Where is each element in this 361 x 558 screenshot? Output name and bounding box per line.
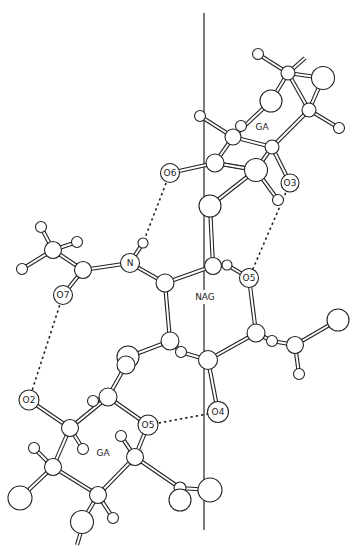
atom-bC4 — [45, 459, 62, 476]
atom-bH5 — [108, 513, 119, 524]
atom-gB3 — [245, 159, 268, 182]
atom-bH3 — [116, 431, 127, 442]
atom-gC1 — [281, 66, 295, 80]
hydrogen-bond-o3-o5n — [249, 183, 290, 278]
atom-nH5b — [294, 369, 305, 380]
atom-nC5 — [247, 324, 265, 342]
atom-bC1 — [99, 388, 117, 406]
atom-gH2 — [334, 123, 345, 134]
atom-nCm — [75, 262, 92, 279]
residue-label-ga-bottom: GA — [96, 448, 110, 458]
atom-gB1 — [312, 67, 335, 90]
atom-gO_r — [260, 90, 282, 112]
atom-label-o5_ga: O5 — [142, 420, 155, 430]
atom-label-o7: O7 — [57, 290, 70, 300]
atom-nC5b — [287, 337, 304, 354]
atom-nH5 — [267, 336, 278, 347]
atom-nC2 — [156, 274, 174, 292]
residue-label-nag: NAG — [195, 292, 215, 302]
hydrogen-bond-o6-nH_N — [143, 173, 170, 243]
atom-nC3 — [161, 332, 179, 350]
atom-gH3 — [195, 111, 206, 122]
atom-gH5 — [273, 195, 284, 206]
atom-gC4 — [265, 140, 279, 154]
atom-bB6 — [169, 489, 191, 511]
atom-nHa3 — [17, 264, 28, 275]
hydrogen-bond-o7-o2 — [29, 295, 63, 400]
atom-nHa2 — [72, 237, 83, 248]
atom-bB5 — [71, 511, 94, 534]
atom-nB5 — [327, 309, 349, 331]
atom-bB0 — [117, 356, 135, 374]
atom-gB4 — [199, 195, 221, 217]
molecular-structure-diagram: O3O6O5NO7O4O2O5 GA NAG GA — [0, 0, 361, 558]
atom-label-o2: O2 — [23, 395, 36, 405]
atom-nCa — [45, 242, 62, 259]
atom-bC2 — [62, 420, 79, 437]
atom-nC6 — [205, 258, 222, 275]
atom-nHa1 — [36, 222, 47, 233]
residue-label-ga-top: GA — [255, 122, 269, 132]
atom-bB7 — [198, 478, 222, 502]
atom-nH_N — [138, 238, 148, 248]
atom-bH2 — [78, 444, 89, 455]
atom-bC3 — [127, 449, 144, 466]
atom-label-n: N — [127, 258, 134, 268]
atom-nC4 — [199, 351, 218, 370]
bond-core-gC2-gC4 — [272, 110, 309, 147]
atom-bB4 — [8, 486, 32, 510]
atom-label-o6: O6 — [164, 168, 177, 178]
atom-gH1 — [253, 49, 264, 60]
atom-bH0 — [88, 396, 99, 407]
atom-label-o5_nag: O5 — [243, 273, 256, 283]
atom-label-o4: O4 — [212, 407, 225, 417]
atom-gC3 — [225, 129, 241, 145]
atom-bH4 — [29, 443, 40, 454]
atom-nH6 — [222, 260, 232, 270]
atom-nH3 — [176, 347, 187, 358]
atom-gC2 — [302, 103, 316, 117]
atom-gB2 — [206, 154, 224, 172]
atom-bC5 — [90, 487, 107, 504]
atom-label-o3: O3 — [284, 178, 297, 188]
